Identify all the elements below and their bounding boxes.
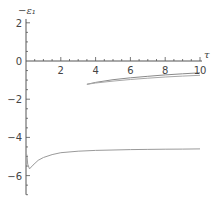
x-axis-title: τ xyxy=(204,49,210,60)
y-tick-label: −4 xyxy=(7,132,22,143)
axes xyxy=(26,19,202,195)
y-tick-label: 2 xyxy=(16,18,22,29)
y-tick-label: −2 xyxy=(7,94,22,105)
x-tick-label: 8 xyxy=(162,65,168,76)
x-tick-label: 2 xyxy=(58,65,64,76)
chart: 24681020−2−4−6τ−ε₁ xyxy=(0,0,220,203)
y-tick-label: −6 xyxy=(7,171,22,182)
y-axis-title: −ε₁ xyxy=(18,5,36,16)
x-tick-label: 10 xyxy=(194,65,207,76)
y-tick-label: 0 xyxy=(16,56,22,67)
axis-labels: 24681020−2−4−6τ−ε₁ xyxy=(7,5,210,182)
x-tick-label: 4 xyxy=(92,65,98,76)
curves xyxy=(27,73,200,169)
x-tick-label: 6 xyxy=(127,65,133,76)
series-line xyxy=(27,149,200,169)
